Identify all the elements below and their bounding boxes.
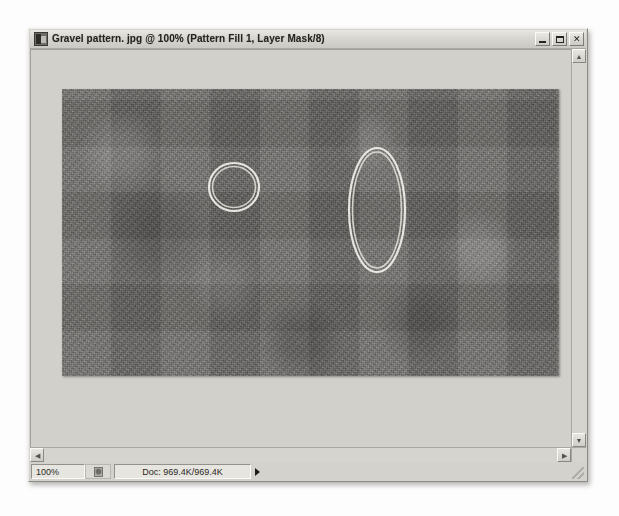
scroll-right-arrow-icon[interactable]: ▶ <box>557 448 571 462</box>
resize-grip[interactable] <box>572 467 584 479</box>
scroll-down-arrow-icon[interactable]: ▼ <box>572 433 586 447</box>
scroll-left-arrow-icon[interactable]: ◀ <box>30 448 44 462</box>
small-circle-selection[interactable] <box>209 163 259 211</box>
large-ellipse-selection[interactable] <box>349 148 405 272</box>
document-preview-icon[interactable] <box>85 464 111 479</box>
minimize-button[interactable] <box>535 32 550 46</box>
photoshop-document-icon <box>34 32 48 46</box>
scroll-up-arrow-icon[interactable]: ▲ <box>572 49 586 63</box>
window-title: Gravel pattern. jpg @ 100% (Pattern Fill… <box>52 33 535 45</box>
scrollbar-corner <box>571 447 586 462</box>
gravel-pattern-image[interactable] <box>62 89 559 376</box>
preview-glyph-icon <box>94 467 103 477</box>
zoom-level-field[interactable]: 100% <box>31 464 85 479</box>
doc-size-field: Doc: 969.4K/969.4K <box>114 464 251 479</box>
status-flyout-button[interactable] <box>251 464 264 479</box>
close-button[interactable]: ✕ <box>569 32 584 46</box>
work-area: ▲ ▼ ◀ ▶ 100% Doc: 969.4K/969.4K <box>30 49 586 480</box>
status-bar: 100% Doc: 969.4K/969.4K <box>30 462 586 480</box>
status-bar-filler <box>264 464 585 479</box>
window-controls: ✕ <box>535 32 584 46</box>
horizontal-scrollbar[interactable]: ◀ ▶ <box>30 447 571 462</box>
maximize-icon <box>553 33 566 45</box>
vertical-scrollbar[interactable]: ▲ ▼ <box>571 49 586 447</box>
canvas-pane[interactable] <box>30 49 571 447</box>
screenshot-root: Gravel pattern. jpg @ 100% (Pattern Fill… <box>0 0 619 516</box>
maximize-button[interactable] <box>552 32 567 46</box>
document-window: Gravel pattern. jpg @ 100% (Pattern Fill… <box>28 28 588 482</box>
flyout-arrow-icon <box>255 468 260 476</box>
title-bar[interactable]: Gravel pattern. jpg @ 100% (Pattern Fill… <box>30 30 586 49</box>
close-icon: ✕ <box>570 33 583 45</box>
selection-overlay <box>62 89 559 376</box>
minimize-icon <box>536 33 549 45</box>
